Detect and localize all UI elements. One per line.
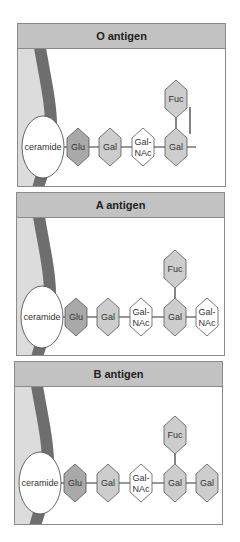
svg-text:NAc: NAc: [132, 318, 150, 328]
ceramide-label: ceramide: [24, 142, 61, 152]
svg-text:Gal: Gal: [101, 312, 115, 322]
panel-title: B antigen: [15, 362, 222, 387]
hex-gal: Gal: [99, 128, 121, 166]
hex-fuc: Fuc: [164, 416, 186, 454]
ceramide-label: ceramide: [21, 478, 58, 488]
hex-gal-terminal: Gal: [196, 464, 218, 502]
svg-text:Gal: Gal: [101, 478, 115, 488]
svg-text:NAc: NAc: [134, 148, 152, 158]
hex-gal-branch-point: Gal: [164, 298, 186, 336]
svg-text:Gal-: Gal-: [132, 307, 149, 317]
panel-title: O antigen: [18, 24, 225, 49]
svg-text:Gal: Gal: [168, 312, 182, 322]
hex-gal: Gal: [97, 298, 119, 336]
hex-galnac: Gal- NAc: [130, 464, 152, 502]
svg-text:Fuc: Fuc: [168, 94, 184, 104]
hex-glu: Glu: [65, 298, 87, 336]
svg-text:Gal: Gal: [169, 142, 183, 152]
hex-gal: Gal: [97, 464, 119, 502]
svg-text:Gal-: Gal-: [134, 137, 151, 147]
svg-text:Fuc: Fuc: [167, 264, 183, 274]
svg-text:Glu: Glu: [71, 142, 85, 152]
hex-galnac: Gal- NAc: [132, 128, 154, 166]
panel-o-antigen: ceramide Glu Gal Gal- NAc Gal Fuc O anti…: [17, 23, 226, 187]
svg-text:Gal: Gal: [168, 478, 182, 488]
hex-glu: Glu: [67, 128, 89, 166]
hex-fuc: Fuc: [164, 250, 186, 288]
svg-text:Gal: Gal: [103, 142, 117, 152]
svg-text:Gal-: Gal-: [132, 473, 149, 483]
hex-galnac-terminal: Gal- NAc: [196, 298, 218, 336]
svg-text:Fuc: Fuc: [167, 430, 183, 440]
hex-fuc: Fuc: [165, 80, 187, 118]
panel-b-antigen: ceramide Glu Gal Gal- NAc Gal Gal Fuc B …: [14, 361, 223, 525]
ceramide-label: ceramide: [23, 312, 60, 322]
svg-text:NAc: NAc: [198, 318, 216, 328]
hex-galnac: Gal- NAc: [130, 298, 152, 336]
panel-a-antigen: ceramide Glu Gal Gal- NAc Gal Gal- NAc F…: [16, 192, 225, 356]
hex-gal-branch-point: Gal: [164, 464, 186, 502]
svg-text:Gal-: Gal-: [198, 307, 215, 317]
svg-text:Glu: Glu: [69, 312, 83, 322]
hex-glu: Glu: [64, 464, 86, 502]
panel-title: A antigen: [17, 193, 224, 218]
hex-gal-terminal: Gal: [165, 128, 187, 166]
svg-text:NAc: NAc: [132, 484, 150, 494]
svg-text:Glu: Glu: [68, 478, 82, 488]
svg-text:Gal: Gal: [200, 478, 214, 488]
